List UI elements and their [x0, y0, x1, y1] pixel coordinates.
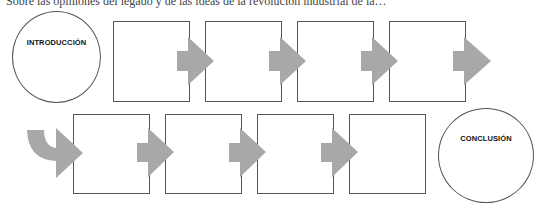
arrow-right-icon	[137, 128, 174, 177]
curved-arrow-icon	[27, 128, 83, 178]
arrow-right-icon	[453, 37, 491, 85]
arrow-right-icon	[321, 128, 358, 177]
arrow-right-icon	[361, 37, 398, 85]
arrow-right-icon	[229, 128, 266, 177]
arrow-right-icon	[177, 37, 214, 85]
arrow-right-icon	[269, 37, 306, 85]
arrow-layer	[0, 0, 539, 210]
